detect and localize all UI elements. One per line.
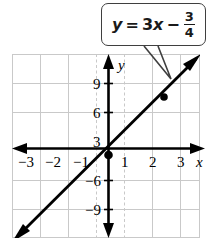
y-axis-label: y: [118, 58, 125, 73]
y-tick-label-3: 3: [93, 135, 101, 150]
x-tick-label-neg1: −1: [73, 155, 89, 170]
y-tick-label-9: 9: [93, 77, 101, 92]
equation-minus-sign: −: [166, 17, 179, 33]
y-axis-bottom-arrowhead: [103, 223, 114, 238]
y-axis-top-arrowhead: [103, 54, 114, 69]
equation-callout: y = 3 x − 3 4: [101, 3, 206, 46]
point-y-intercept: [104, 151, 113, 160]
graph-figure: −3 −2 −1 1 2 3 9 6 3 −6 −9 y x y = 3 x −…: [0, 0, 214, 242]
y-tick-label-neg9: −9: [85, 203, 101, 218]
x-axis-right-arrowhead: [190, 143, 205, 154]
x-tick-label-neg3: −3: [18, 155, 34, 170]
equation-slope-coefficient: 3: [142, 17, 153, 33]
x-axis-left-arrowhead: [12, 143, 27, 154]
fraction-numerator: 3: [184, 10, 195, 24]
x-axis-label: x: [196, 155, 203, 170]
x-tick-label-3: 3: [177, 155, 185, 170]
callout-tail: [144, 46, 171, 79]
fraction-denominator: 4: [184, 24, 195, 39]
equation-lhs: y: [112, 17, 122, 33]
y-tick-label-neg6: −6: [85, 174, 101, 189]
equation-equals-sign: =: [126, 17, 139, 33]
point-on-line: [160, 93, 168, 101]
equation-fraction: 3 4: [184, 10, 195, 39]
x-tick-label-neg2: −2: [45, 155, 61, 170]
equation-expression: y = 3 x − 3 4: [112, 10, 195, 39]
x-tick-label-2: 2: [149, 155, 157, 170]
equation-slope-variable: x: [153, 17, 163, 33]
x-tick-label-1: 1: [121, 155, 129, 170]
y-tick-label-6: 6: [93, 106, 101, 121]
